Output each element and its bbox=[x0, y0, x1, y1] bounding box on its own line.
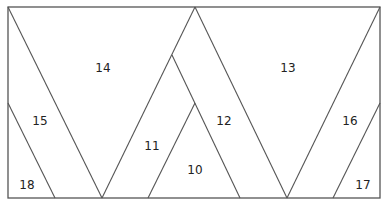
region-label-18: 18 bbox=[19, 178, 34, 192]
partition-diagram: 14 13 15 16 12 11 10 18 17 bbox=[0, 0, 385, 207]
region-label-10: 10 bbox=[187, 163, 202, 177]
region-label-13: 13 bbox=[280, 61, 295, 75]
region-label-15: 15 bbox=[32, 114, 47, 128]
region-label-11: 11 bbox=[144, 139, 159, 153]
region-label-12: 12 bbox=[216, 114, 231, 128]
line-left-diagonal bbox=[8, 7, 102, 198]
region-label-17: 17 bbox=[355, 178, 370, 192]
region-label-14: 14 bbox=[95, 61, 110, 75]
line-center-left bbox=[102, 7, 195, 198]
line-center-right bbox=[195, 7, 287, 198]
region-label-16: 16 bbox=[342, 114, 357, 128]
region-labels: 14 13 15 16 12 11 10 18 17 bbox=[19, 61, 370, 192]
line-right-diagonal bbox=[287, 7, 380, 198]
